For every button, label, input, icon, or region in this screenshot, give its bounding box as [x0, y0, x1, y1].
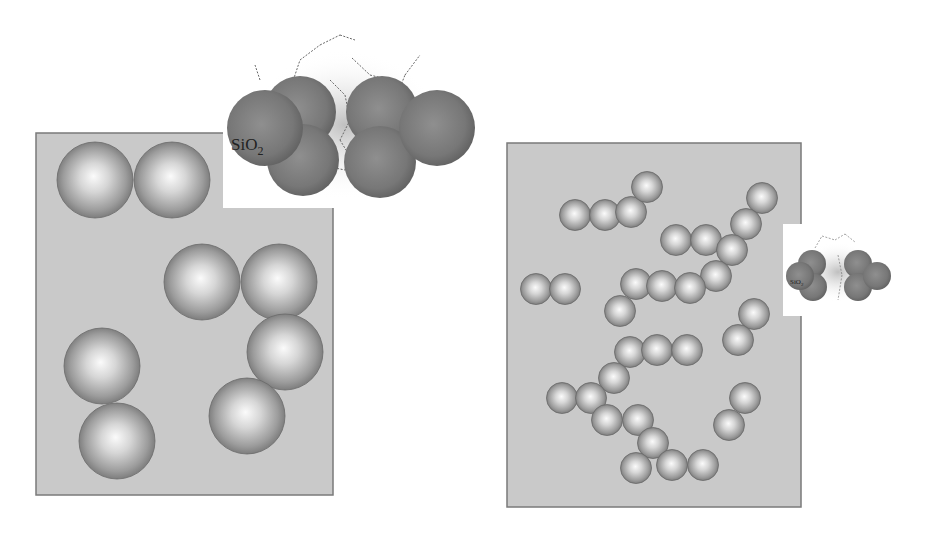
silica-particle-small	[547, 383, 578, 414]
silica-particle-small	[615, 337, 646, 368]
silica-aggregate-sphere	[399, 90, 475, 166]
silica-particle-small	[550, 274, 581, 305]
silica-particle-large	[209, 378, 285, 454]
silica-particle-small	[647, 271, 678, 302]
silica-particle-small	[675, 273, 706, 304]
silica-particle-small	[605, 296, 636, 327]
silica-particle-small	[560, 200, 591, 231]
silica-particle-small	[747, 183, 778, 214]
silica-particle-small	[714, 410, 745, 441]
silica-aggregate-sphere	[863, 262, 891, 290]
silica-aggregate-sphere	[227, 90, 303, 166]
silica-particle-small	[521, 274, 552, 305]
silica-particle-small	[657, 450, 688, 481]
silica-particle-large	[241, 244, 317, 320]
label-main: SiO	[790, 278, 801, 286]
silica-particle-small	[739, 299, 770, 330]
silica-particle-small	[632, 172, 663, 203]
silica-particle-large	[134, 142, 210, 218]
silica-particle-small	[730, 383, 761, 414]
silica-particle-large	[57, 142, 133, 218]
silica-particle-small	[661, 225, 692, 256]
right-inset: SiO2	[783, 224, 898, 316]
silica-particle-large	[247, 314, 323, 390]
silica-particle-small	[621, 453, 652, 484]
silica-particle-small	[672, 335, 703, 366]
silica-particle-large	[79, 403, 155, 479]
silica-particle-large	[164, 244, 240, 320]
right-panel	[507, 143, 801, 507]
silica-particle-large	[64, 328, 140, 404]
silica-particle-small	[723, 325, 754, 356]
left-inset: SiO2	[223, 20, 475, 208]
silica-particle-small	[642, 335, 673, 366]
label-subscript: 2	[257, 144, 263, 158]
silica-particle-small	[688, 450, 719, 481]
figure-canvas: SiO2 SiO2	[0, 0, 929, 535]
silica-particle-small	[717, 235, 748, 266]
label-main: SiO	[231, 135, 257, 154]
silica-particle-small	[592, 405, 623, 436]
